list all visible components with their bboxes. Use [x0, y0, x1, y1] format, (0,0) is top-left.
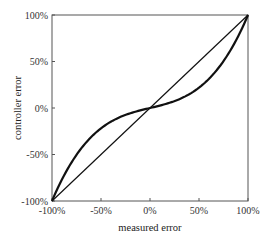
x-tick-label: 50%	[190, 205, 208, 216]
x-tick-label: -50%	[90, 205, 112, 216]
y-tick-label: 0%	[35, 103, 48, 114]
y-tick-label: 50%	[30, 56, 48, 67]
y-tick-label: -50%	[26, 149, 48, 160]
x-tick-label: -100%	[39, 205, 66, 216]
y-axis-ticks: -100%-50%0%50%100%	[21, 10, 55, 207]
data-series	[52, 15, 248, 201]
y-tick-label: 100%	[25, 10, 48, 21]
chart: -100%-50%0%50%100% -100%-50%0%50%100% me…	[0, 0, 271, 239]
y-axis-label: controller error	[12, 76, 23, 140]
x-tick-label: 0%	[143, 205, 156, 216]
x-tick-label: 100%	[236, 205, 259, 216]
x-axis-label: measured error	[118, 222, 182, 233]
